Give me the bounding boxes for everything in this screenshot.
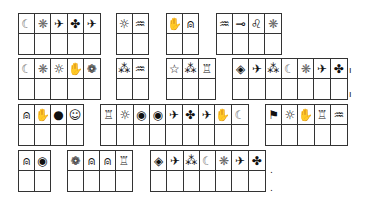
answer-cell[interactable] — [184, 171, 200, 191]
airplane-icon: ✈ — [314, 59, 330, 79]
answer-cell[interactable] — [133, 79, 149, 99]
answer-cell[interactable] — [84, 79, 100, 99]
three-stars-icon: ⁂ — [266, 59, 282, 79]
symbol-box: ⍝◉ — [18, 150, 51, 192]
answer-cell[interactable] — [117, 125, 133, 145]
answer-cell[interactable] — [84, 34, 100, 54]
symbol-box: ☆⁂♖ — [166, 58, 216, 100]
answer-cell[interactable] — [101, 125, 117, 145]
eye-icon: ◉ — [134, 105, 150, 125]
symbol-box: ☼♒ — [116, 13, 149, 55]
margin-mark: . — [270, 166, 273, 175]
answer-cell[interactable] — [35, 171, 51, 191]
answer-cell[interactable] — [331, 79, 347, 99]
answer-cell[interactable] — [200, 171, 216, 191]
hand-icon: ✋ — [68, 59, 84, 79]
eye-icon: ◉ — [150, 105, 166, 125]
answer-cell[interactable] — [116, 171, 132, 191]
sun-icon: ☼ — [51, 59, 67, 79]
answer-cell[interactable] — [150, 125, 166, 145]
answer-cell[interactable] — [151, 171, 167, 191]
answer-cell[interactable] — [19, 34, 35, 54]
answer-cell[interactable] — [117, 79, 133, 99]
answer-cell[interactable] — [35, 125, 51, 145]
waves-icon: ♒ — [331, 105, 347, 125]
answer-cell[interactable] — [266, 125, 282, 145]
answer-cell[interactable] — [183, 34, 199, 54]
answer-cell[interactable] — [215, 125, 231, 145]
three-stars-icon: ⁂ — [117, 59, 133, 79]
answer-cell[interactable] — [84, 171, 100, 191]
answer-cell[interactable] — [249, 171, 265, 191]
answer-cell[interactable] — [35, 34, 51, 54]
answer-cell[interactable] — [35, 79, 51, 99]
symbol-box: ♖☼◉◉✈✤✈✋☾ — [100, 104, 249, 146]
answer-cell[interactable] — [166, 125, 182, 145]
hand-icon: ✋ — [167, 14, 183, 34]
answer-cell[interactable] — [233, 79, 249, 99]
answer-cell[interactable] — [133, 34, 149, 54]
sun-icon: ☼ — [282, 105, 298, 125]
answer-cell[interactable] — [19, 125, 35, 145]
clover-icon: ✤ — [183, 105, 199, 125]
symbol-box: ⍝✋●☺ — [18, 104, 84, 146]
answer-cell[interactable] — [183, 79, 199, 99]
answer-cell[interactable] — [249, 79, 265, 99]
answer-cell[interactable] — [117, 34, 133, 54]
answer-cell[interactable] — [167, 171, 183, 191]
answer-cell[interactable] — [167, 34, 183, 54]
answer-cell[interactable] — [51, 34, 67, 54]
answer-cell[interactable] — [19, 171, 35, 191]
margin-mark: . — [270, 184, 273, 193]
answer-cell[interactable] — [282, 125, 298, 145]
hand-icon: ✋ — [215, 105, 231, 125]
hand-icon: ✋ — [298, 105, 314, 125]
answer-cell[interactable] — [315, 125, 331, 145]
answer-cell[interactable] — [282, 79, 298, 99]
symbol-box: ◈✈⁂☾❋✈✤ — [232, 58, 348, 100]
answer-cell[interactable] — [331, 125, 347, 145]
answer-cell[interactable] — [67, 125, 83, 145]
moon-icon: ☾ — [19, 59, 35, 79]
answer-cell[interactable] — [298, 125, 314, 145]
answer-cell[interactable] — [314, 79, 330, 99]
answer-cell[interactable] — [266, 79, 282, 99]
snowflake-icon: ❋ — [298, 59, 314, 79]
answer-cell[interactable] — [233, 34, 249, 54]
key-icon: ⊸ — [233, 14, 249, 34]
answer-cell[interactable] — [217, 34, 233, 54]
airplane-icon: ✈ — [166, 105, 182, 125]
bell-icon: ⍝ — [19, 105, 35, 125]
answer-cell[interactable] — [265, 34, 281, 54]
candle-icon: ♖ — [101, 105, 117, 125]
answer-cell[interactable] — [216, 171, 232, 191]
answer-cell[interactable] — [183, 125, 199, 145]
snowflake-icon: ❋ — [216, 151, 232, 171]
answer-cell[interactable] — [232, 171, 248, 191]
answer-cell[interactable] — [68, 34, 84, 54]
diamond-icon: ◈ — [151, 151, 167, 171]
answer-cell[interactable] — [249, 34, 265, 54]
answer-cell[interactable] — [68, 171, 84, 191]
symbol-box: ☾❋✈✤✈ — [18, 13, 101, 55]
answer-cell[interactable] — [51, 79, 67, 99]
answer-cell[interactable] — [134, 125, 150, 145]
margin-mark: ı — [349, 66, 352, 75]
answer-cell[interactable] — [68, 79, 84, 99]
answer-cell[interactable] — [199, 79, 215, 99]
snowflake-icon: ❋ — [265, 14, 281, 34]
smiley-icon: ☺ — [67, 105, 83, 125]
answer-cell[interactable] — [51, 125, 67, 145]
clover-icon: ✤ — [331, 59, 347, 79]
candle-icon: ♖ — [199, 59, 215, 79]
answer-cell[interactable] — [100, 171, 116, 191]
airplane-icon: ✈ — [199, 105, 215, 125]
answer-cell[interactable] — [199, 125, 215, 145]
answer-cell[interactable] — [298, 79, 314, 99]
symbol-box: ☾❋☼✋❁ — [18, 58, 101, 100]
sun-icon: ☼ — [117, 14, 133, 34]
answer-cell[interactable] — [232, 125, 248, 145]
bell-icon: ⍝ — [100, 151, 116, 171]
answer-cell[interactable] — [19, 79, 35, 99]
answer-cell[interactable] — [167, 79, 183, 99]
